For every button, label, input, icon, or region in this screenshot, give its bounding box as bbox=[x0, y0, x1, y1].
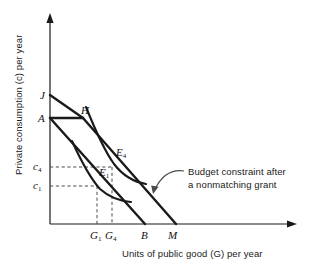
annotation-line-2: a nonmatching grant bbox=[188, 179, 277, 190]
economics-diagram-figure: J A c4 c1 G1 G4 B M bbox=[0, 0, 311, 269]
x-label-B: B bbox=[141, 229, 148, 241]
budget-line-extension-J-to-H bbox=[50, 95, 83, 118]
curve-label-H: H bbox=[80, 104, 90, 116]
x-axis-arrow-icon bbox=[287, 220, 297, 227]
x-label-G4: G4 bbox=[105, 229, 117, 243]
annotation-text-group: Budget constraint after a nonmatching gr… bbox=[188, 166, 286, 190]
x-axis-labels-group: G1 G4 B M bbox=[90, 229, 178, 243]
y-axis-arrow-icon bbox=[46, 13, 53, 23]
annotation-leader-curve bbox=[155, 171, 184, 189]
x-axis-title: Units of public good (G) per year bbox=[122, 248, 263, 259]
annotation-leader-group bbox=[151, 171, 184, 194]
y-label-A: A bbox=[37, 112, 45, 124]
curve-label-E4: E4 bbox=[115, 146, 127, 160]
annotation-line-1: Budget constraint after bbox=[188, 166, 286, 177]
annotation-arrowhead-icon bbox=[151, 186, 158, 194]
curve-label-E1: E1 bbox=[98, 166, 110, 180]
x-label-G1: G1 bbox=[90, 229, 102, 243]
y-label-c4: c4 bbox=[33, 160, 42, 174]
budget-lines-group bbox=[50, 95, 176, 224]
y-axis-labels-group: J A c4 c1 bbox=[33, 89, 46, 193]
x-label-M: M bbox=[167, 229, 178, 241]
y-label-c1: c1 bbox=[33, 179, 42, 193]
y-label-J: J bbox=[40, 89, 46, 101]
y-axis-title: Private consumption (c) per year bbox=[13, 35, 24, 175]
